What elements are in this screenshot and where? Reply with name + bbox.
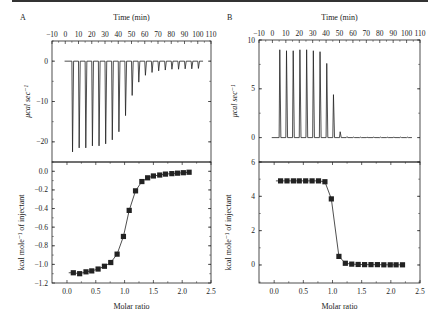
- time-tick-label: 10: [282, 29, 290, 38]
- time-tick-label: 60: [141, 30, 149, 39]
- data-point-marker: [169, 171, 174, 176]
- raw-y-axis-label: μcal sec⁻¹: [23, 85, 32, 119]
- time-tick-label: 110: [415, 29, 426, 38]
- molar-ratio-tick-label: 0.0: [62, 287, 72, 296]
- time-tick-label: 100: [401, 29, 413, 38]
- data-point-marker: [151, 173, 156, 178]
- time-tick-label: 80: [168, 30, 176, 39]
- heat-y-tick-label: 6: [251, 158, 255, 167]
- raw-y-tick-label: 0: [44, 57, 48, 66]
- data-point-marker: [163, 172, 168, 177]
- molar-ratio-tick-label: 1.0: [120, 287, 130, 296]
- data-point-marker: [108, 260, 113, 265]
- molar-ratio-tick-label: 0.5: [91, 287, 101, 296]
- molar-ratio-tick-label: 2.0: [178, 287, 188, 296]
- time-tick-label: 10: [75, 30, 83, 39]
- panel-label: A: [20, 13, 26, 22]
- time-tick-label: 0: [271, 29, 275, 38]
- data-point-marker: [157, 172, 162, 177]
- panel-b: BTime (min)−1001020304050607080901001100…: [224, 13, 426, 311]
- panel-a: ATime (min)−1001020304050607080901001100…: [17, 13, 217, 311]
- data-point-marker: [102, 264, 107, 269]
- heat-y-tick-label: 2: [251, 226, 255, 235]
- data-point-marker: [309, 178, 314, 183]
- data-point-marker: [284, 178, 289, 183]
- data-point-marker: [349, 262, 354, 267]
- molar-ratio-axis-label: Molar ratio: [113, 302, 149, 311]
- data-point-marker: [89, 268, 94, 273]
- time-tick-label: 0: [63, 30, 67, 39]
- heat-y-tick-label: −1.2: [34, 279, 48, 288]
- data-point-marker: [393, 262, 398, 267]
- data-point-marker: [322, 179, 327, 184]
- data-point-marker: [316, 178, 321, 183]
- time-tick-label: 30: [309, 29, 317, 38]
- heat-y-tick-label: −0.6: [34, 223, 48, 232]
- data-point-marker: [133, 188, 138, 193]
- panel-label: B: [227, 13, 232, 22]
- time-axis-title: Time (min): [321, 13, 358, 22]
- data-point-marker: [181, 170, 186, 175]
- data-point-marker: [343, 261, 348, 266]
- heat-y-tick-label: 0: [251, 260, 255, 269]
- time-tick-label: 40: [322, 29, 330, 38]
- molar-ratio-tick-label: 2.0: [386, 287, 396, 296]
- data-point-marker: [297, 178, 302, 183]
- molar-ratio-tick-label: 1.5: [357, 287, 367, 296]
- heat-y-axis-label: kcal mole⁻¹ of injectant: [224, 194, 233, 271]
- molar-ratio-tick-label: 2.5: [415, 287, 425, 296]
- time-tick-label: 20: [296, 29, 304, 38]
- data-point-marker: [400, 262, 405, 267]
- time-tick-label: 100: [192, 30, 204, 39]
- data-point-marker: [83, 269, 88, 274]
- heat-y-tick-label: 0.0: [39, 167, 49, 176]
- heat-y-tick-label: −1.0: [34, 260, 48, 269]
- data-point-marker: [127, 208, 132, 213]
- fit-curve: [69, 172, 189, 273]
- data-point-marker: [175, 171, 180, 176]
- heat-plot-frame: [52, 162, 211, 283]
- data-point-marker: [187, 170, 192, 175]
- molar-ratio-tick-label: 1.5: [149, 287, 159, 296]
- time-tick-label: −10: [46, 30, 58, 39]
- molar-ratio-tick-label: 0.0: [269, 287, 279, 296]
- raw-plot-frame: [52, 41, 211, 162]
- data-point-marker: [336, 254, 341, 259]
- time-tick-label: 50: [336, 29, 344, 38]
- data-point-marker: [121, 234, 126, 239]
- raw-plot-frame: [259, 40, 420, 162]
- time-tick-label: 70: [154, 30, 162, 39]
- time-tick-label: 30: [101, 30, 109, 39]
- data-point-marker: [381, 262, 386, 267]
- time-tick-label: 80: [376, 29, 384, 38]
- molar-ratio-tick-label: 2.5: [206, 287, 216, 296]
- time-tick-label: 110: [206, 30, 217, 39]
- heat-y-tick-label: −0.8: [34, 241, 48, 250]
- data-point-marker: [303, 178, 308, 183]
- data-point-marker: [77, 271, 82, 276]
- heat-y-tick-label: −0.4: [34, 204, 48, 213]
- raw-y-tick-label: 10: [248, 36, 256, 45]
- data-point-marker: [388, 262, 393, 267]
- raw-y-axis-label: μcal sec⁻¹: [230, 84, 239, 118]
- time-axis-title: Time (min): [113, 13, 150, 22]
- itc-figure: ATime (min)−1001020304050607080901001100…: [0, 0, 438, 321]
- raw-y-tick-label: 5: [251, 84, 255, 93]
- molar-ratio-axis-label: Molar ratio: [321, 302, 357, 311]
- data-point-marker: [375, 262, 380, 267]
- time-tick-label: 70: [363, 29, 371, 38]
- data-point-marker: [114, 252, 119, 257]
- data-point-marker: [71, 270, 76, 275]
- raw-y-tick-label: 0: [251, 133, 255, 142]
- raw-y-tick-label: −10: [36, 97, 48, 106]
- time-tick-label: 90: [181, 30, 189, 39]
- thermogram-trace: [272, 50, 412, 138]
- thermogram-trace: [65, 61, 203, 152]
- time-tick-label: 60: [349, 29, 357, 38]
- data-point-marker: [356, 262, 361, 267]
- fit-curve: [276, 181, 403, 265]
- data-point-marker: [291, 178, 296, 183]
- data-point-marker: [362, 262, 367, 267]
- data-point-marker: [368, 262, 373, 267]
- data-point-marker: [145, 175, 150, 180]
